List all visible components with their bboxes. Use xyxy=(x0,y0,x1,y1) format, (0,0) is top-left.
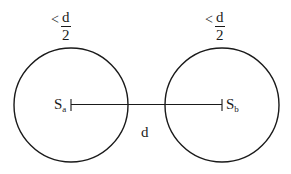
left-radius-relation: < xyxy=(51,12,59,28)
center-label-a: Sa xyxy=(54,97,66,114)
left-radius-numerator: d xyxy=(61,10,71,27)
right-radius-numerator: d xyxy=(215,10,225,27)
diagram-canvas xyxy=(0,0,291,174)
center-label-b: Sb xyxy=(226,97,239,114)
right-radius-relation: < xyxy=(205,12,213,28)
distance-label: d xyxy=(141,125,149,140)
center-label-b-sub: b xyxy=(234,104,239,114)
left-radius-denominator: 2 xyxy=(61,27,71,43)
center-label-a-sub: a xyxy=(62,104,66,114)
left-radius-fraction: d 2 xyxy=(61,10,71,43)
right-radius-fraction: d 2 xyxy=(215,10,225,43)
right-radius-denominator: 2 xyxy=(215,27,225,43)
